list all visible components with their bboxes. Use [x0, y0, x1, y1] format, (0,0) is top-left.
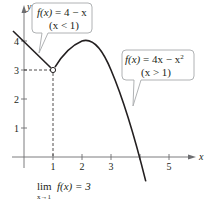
axes: [12, 10, 190, 168]
svg-text:f(x) = 4 − x: f(x) = 4 − x: [37, 6, 87, 19]
callout-right: f(x) = 4x − x2 (x > 1): [122, 50, 194, 106]
x-tick-5: 5: [167, 161, 172, 172]
x-axis-arrow-icon: [188, 155, 196, 160]
limit-statement: lim x→1 f(x) = 3: [37, 180, 91, 201]
svg-text:f(x) = 4x − x2: f(x) = 4x − x2: [125, 53, 184, 66]
y-tick-2: 2: [14, 94, 19, 105]
callout-right-fx: f(x): [125, 53, 141, 66]
y-axis-arrow-icon: [22, 5, 27, 13]
callout-right-exponent: 2: [180, 53, 184, 61]
callout-left-condition: (x < 1): [49, 19, 79, 32]
y-tick-1: 1: [14, 123, 19, 134]
callout-right-expr: = 4x − x: [140, 53, 180, 65]
limit-expression: f(x) = 3: [57, 180, 91, 193]
limit-lim: lim: [37, 180, 52, 192]
callout-left: f(x) = 4 − x (x < 1): [32, 3, 92, 53]
function-graph: x y 1 2 3 5 1 2 3 4 f(x) = 4 − x (x < 1): [0, 0, 210, 207]
limit-subscript: x→1: [37, 193, 52, 201]
x-tick-3: 3: [109, 161, 114, 172]
callout-left-expr: = 4 − x: [52, 6, 87, 18]
y-tick-3: 3: [14, 65, 19, 76]
x-axis-label: x: [198, 151, 204, 162]
x-tick-1: 1: [51, 161, 56, 172]
x-tick-2: 2: [80, 161, 85, 172]
callout-right-condition: (x > 1): [141, 66, 171, 79]
open-point-marker: [50, 67, 55, 72]
y-axis-label: y: [26, 1, 32, 12]
dashed-guides: [24, 70, 53, 157]
callout-left-fx: f(x): [37, 6, 53, 19]
